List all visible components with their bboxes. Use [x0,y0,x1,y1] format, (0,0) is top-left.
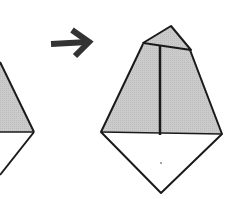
diagram-canvas [0,0,233,199]
step-arrow-icon [51,30,89,56]
previous-shape [0,62,34,175]
origami-diagram: Origami folding step: previous shape on … [0,0,233,199]
result-shape [101,26,222,193]
